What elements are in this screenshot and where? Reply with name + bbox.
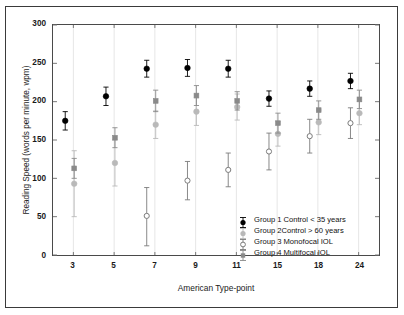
y-tick-label: 200 <box>8 97 46 105</box>
marker-circle <box>194 109 200 115</box>
legend-marker-icon <box>232 225 254 236</box>
data-point <box>153 111 159 139</box>
x-tick-label: 7 <box>140 261 170 270</box>
data-point <box>112 128 117 148</box>
marker-square <box>194 93 199 98</box>
marker-circle <box>266 96 272 102</box>
legend-label: Group 1 Control < 35 years <box>254 214 346 225</box>
x-tick-label: 18 <box>304 261 334 270</box>
marker-circle <box>71 181 77 187</box>
data-point <box>103 87 109 105</box>
legend-label: Group 3 Monofocal IOL <box>254 236 333 247</box>
data-point <box>266 91 272 106</box>
x-tick-label: 3 <box>58 261 88 270</box>
legend-marker-icon <box>232 214 254 225</box>
data-point <box>225 60 231 77</box>
data-point <box>62 112 68 130</box>
chart-legend: Group 1 Control < 35 yearsGroup 2Control… <box>232 214 382 258</box>
y-tick-label: 150 <box>8 136 46 144</box>
x-tick-label: 15 <box>263 261 293 270</box>
marker-circle <box>144 66 150 72</box>
x-tick-label: 9 <box>181 261 211 270</box>
x-tick-label: 24 <box>345 261 375 270</box>
marker-open-circle <box>307 134 312 139</box>
data-point <box>144 188 149 246</box>
marker-square <box>235 99 240 104</box>
y-tick-label: 50 <box>8 213 46 221</box>
marker-open-circle <box>185 178 190 183</box>
marker-circle <box>112 160 118 166</box>
legend-item: Group 2Control > 60 years <box>232 225 382 236</box>
marker-circle <box>316 120 322 126</box>
data-point <box>266 133 271 170</box>
data-point <box>72 158 77 178</box>
marker-circle <box>307 86 313 92</box>
x-axis-title: American Type-point <box>52 283 380 293</box>
data-point <box>348 108 353 139</box>
data-point <box>153 90 158 111</box>
data-point <box>275 113 280 133</box>
data-point <box>144 60 150 77</box>
x-tick-label: 5 <box>99 261 129 270</box>
y-tick-label: 300 <box>8 20 46 28</box>
marker-open-circle <box>348 121 353 126</box>
marker-circle <box>225 66 231 72</box>
marker-square <box>72 166 77 171</box>
marker-circle <box>348 78 354 84</box>
marker-square <box>316 108 321 113</box>
legend-item: Group 4 Multifocal IOL <box>232 247 382 258</box>
data-point <box>307 81 313 96</box>
legend-label: Group 4 Multifocal IOL <box>254 247 330 258</box>
marker-circle <box>62 118 68 124</box>
figure-container: Reading Speed (words per minute, wpm) 05… <box>0 0 404 315</box>
marker-square <box>153 99 158 104</box>
marker-circle <box>103 94 109 100</box>
marker-open-circle <box>266 149 271 154</box>
legend-item: Group 1 Control < 35 years <box>232 214 382 225</box>
data-point <box>226 153 231 187</box>
data-point <box>316 101 321 119</box>
marker-square <box>357 97 362 102</box>
marker-circle <box>185 65 191 71</box>
x-tick-label: 11 <box>222 261 252 270</box>
data-point <box>348 73 354 88</box>
y-tick-label: 250 <box>8 59 46 67</box>
data-point <box>357 90 362 108</box>
data-point <box>307 119 312 153</box>
legend-marker-icon <box>232 247 254 258</box>
legend-marker-icon <box>232 236 254 247</box>
y-tick-label: 100 <box>8 175 46 183</box>
marker-square <box>113 135 118 140</box>
data-point <box>185 60 191 77</box>
marker-circle <box>153 122 159 128</box>
data-point <box>185 161 190 199</box>
data-point <box>194 86 199 106</box>
legend-item: Group 3 Monofocal IOL <box>232 236 382 247</box>
marker-open-circle <box>226 167 231 172</box>
y-tick-label: 0 <box>8 252 46 260</box>
marker-open-circle <box>144 213 149 218</box>
marker-circle <box>357 110 363 116</box>
legend-label: Group 2Control > 60 years <box>254 225 344 236</box>
marker-square <box>276 121 281 126</box>
